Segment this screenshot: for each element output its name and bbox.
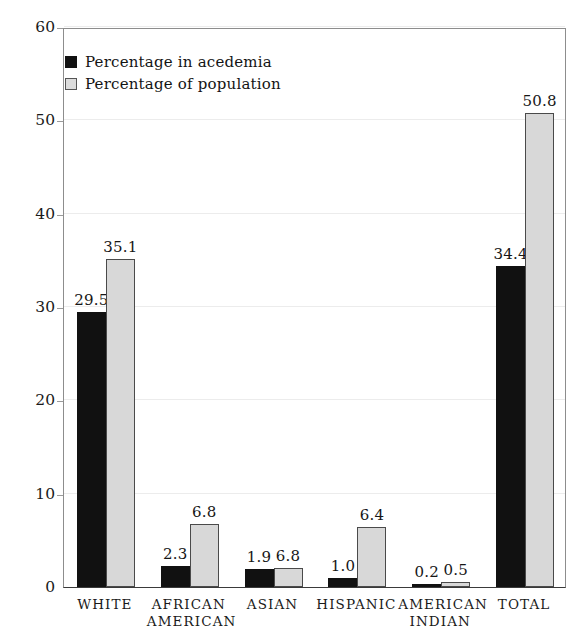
bar-population: 6.8 [274,568,303,587]
bar-academia: 34.4 [496,266,525,587]
bar-value-label: 6.4 [360,506,384,524]
y-axis-tick-label: 10 [0,485,55,503]
bar-group: 1.96.8 [232,29,316,587]
legend-item-population: Percentage of population [65,74,281,93]
x-axis-category-label: ASIAN [231,596,315,613]
legend-swatch-academia-icon [65,56,77,68]
bar-group: 1.06.4 [316,29,400,587]
x-axis-category-line: TOTAL [482,596,566,613]
bar-value-label: 1.9 [247,548,271,566]
y-axis-tick-label: 30 [0,298,55,316]
bar-academia: 1.9 [245,569,274,587]
x-axis-category-label: AMERICANINDIAN [398,596,482,630]
bar-value-label: 6.8 [276,547,300,565]
legend-label: Percentage in acedemia [85,53,272,71]
y-axis-tick-label: 0 [0,578,55,596]
bar-academia: 1.0 [328,578,357,587]
x-axis-category-label: HISPANIC [315,596,399,613]
x-axis-category-line: AMERICAN [147,613,231,630]
plot-area: 29.535.12.36.81.96.81.06.40.20.534.450.8 [63,28,566,588]
y-axis-tick-label: 40 [0,205,55,223]
bar-group: 2.36.8 [148,29,232,587]
x-axis-category-line: AFRICAN [147,596,231,613]
bar-population: 50.8 [525,113,554,587]
x-axis-category-line: AMERICAN [398,596,482,613]
chart-legend: Percentage in acedemiaPercentage of popu… [65,52,281,96]
bar-population: 6.8 [190,524,219,587]
y-axis-tick-label: 50 [0,111,55,129]
bar-group: 34.450.8 [483,29,567,587]
bar-academia: 0.2 [412,584,441,587]
bar-value-label: 2.3 [163,545,187,563]
x-axis-category-line: ASIAN [231,596,315,613]
bar-population: 6.4 [357,527,386,587]
legend-swatch-population-icon [65,78,77,90]
legend-item-academia: Percentage in acedemia [65,52,281,71]
bar-value-label: 50.8 [522,92,556,110]
bar-population: 0.5 [441,582,470,587]
x-axis-category-label: WHITE [63,596,147,613]
x-axis-category-line: HISPANIC [315,596,399,613]
y-axis-tick-label: 20 [0,391,55,409]
bar-academia: 2.3 [161,566,190,587]
x-axis-category-label: TOTAL [482,596,566,613]
bar-group: 29.535.1 [64,29,148,587]
bar-value-label: 0.2 [415,563,439,581]
x-axis-category-line: INDIAN [398,613,482,630]
bar-chart: 0102030405060 29.535.12.36.81.96.81.06.4… [0,0,583,637]
bar-value-label: 6.8 [192,503,216,521]
bar-population: 35.1 [106,259,135,587]
bar-value-label: 34.4 [493,245,527,263]
x-axis-category-label: AFRICANAMERICAN [147,596,231,630]
bar-academia: 29.5 [77,312,106,587]
x-axis-category-line: WHITE [63,596,147,613]
bar-group: 0.20.5 [399,29,483,587]
legend-label: Percentage of population [85,75,281,93]
bar-value-label: 29.5 [74,291,108,309]
bar-value-label: 35.1 [103,238,137,256]
gridline [64,26,565,27]
bar-value-label: 0.5 [444,561,468,579]
y-axis-tick-label: 60 [0,18,55,36]
bar-value-label: 1.0 [331,557,355,575]
